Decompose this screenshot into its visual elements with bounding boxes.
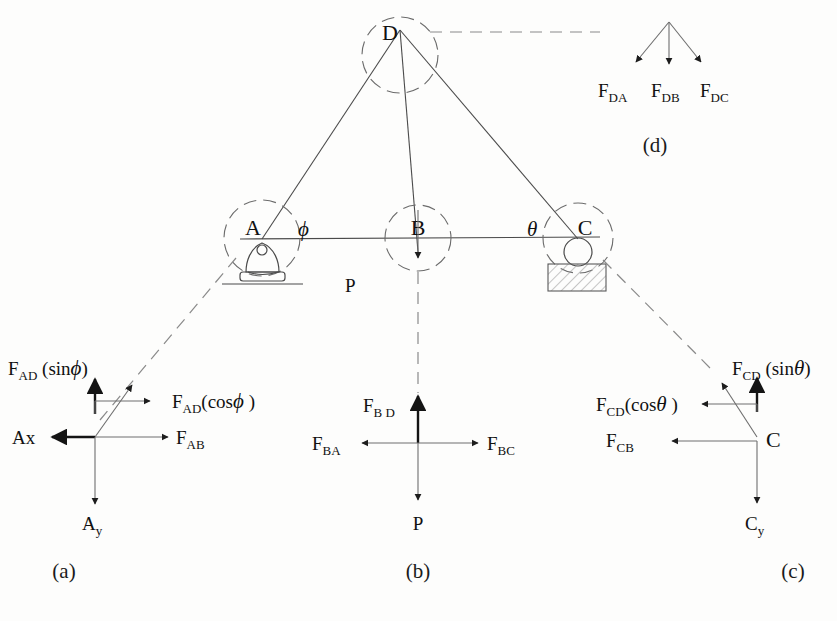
roller-support-C <box>548 238 606 291</box>
leader-C-to-panel-c <box>603 260 712 370</box>
arrow-F-AD-resultant <box>95 385 132 437</box>
force-label-F-AD-cos-phi: FAD(cosϕ ) <box>172 389 255 416</box>
force-label-P-panel-b: P <box>413 513 424 534</box>
joint-label-C: C <box>578 215 593 240</box>
force-label-F-DB: FDB <box>651 80 680 105</box>
force-label-Cy: Cy <box>745 513 765 538</box>
force-label-F-DA: FDA <box>598 80 628 105</box>
force-label-F-CD-cos-theta: FCD(cosθ ) <box>596 392 678 419</box>
force-label-Ay: Ay <box>82 513 103 538</box>
truss-structure: D A B C ϕ θ P <box>222 17 613 296</box>
member-DA <box>262 30 400 239</box>
panel-caption-a: (a) <box>52 559 75 583</box>
panel-caption-c: (c) <box>781 559 804 583</box>
force-label-F-CB: FCB <box>606 430 634 455</box>
arrow-F-DA <box>636 22 669 62</box>
panel-c: FCD (sinθ) FCD(cosθ ) FCB C Cy (c) <box>596 356 811 583</box>
force-label-F-DC: FDC <box>700 80 729 105</box>
arrow-F-DC <box>669 22 701 62</box>
panel-caption-d: (d) <box>643 133 668 157</box>
force-label-F-BC: FBC <box>487 433 515 458</box>
joint-label-D: D <box>382 20 398 45</box>
joint-label-C-panel-c: C <box>766 427 781 452</box>
joint-circle-D <box>362 17 438 93</box>
truss-free-body-diagram: D A B C ϕ θ P <box>0 0 837 621</box>
angle-label-theta: θ <box>527 217 537 241</box>
panel-a: FAD (sinϕ) FAD(cosϕ ) Ax FAB Ay (a) <box>8 356 255 583</box>
joint-circle-A <box>224 200 300 276</box>
joint-label-A: A <box>245 215 261 240</box>
force-label-Ax: Ax <box>12 427 36 448</box>
angle-label-phi: ϕ <box>298 217 309 241</box>
panel-d: FDA FDB FDC (d) <box>598 22 729 157</box>
panel-caption-b: (b) <box>406 559 431 583</box>
force-label-F-AB: FAB <box>176 427 205 452</box>
arrow-F-CD-resultant <box>722 383 757 437</box>
figure-canvas: D A B C ϕ θ P <box>0 0 837 621</box>
panel-b: FB D FBA FBC P (b) <box>312 395 515 583</box>
force-label-F-BD: FB D <box>363 395 395 420</box>
force-label-F-AD-sin-phi: FAD (sinϕ) <box>8 356 88 383</box>
force-label-F-BA: FBA <box>312 433 341 458</box>
load-label-P: P <box>345 275 356 296</box>
force-label-F-CD-sin-theta: FCD (sinθ) <box>732 356 811 383</box>
member-DC <box>400 30 578 239</box>
